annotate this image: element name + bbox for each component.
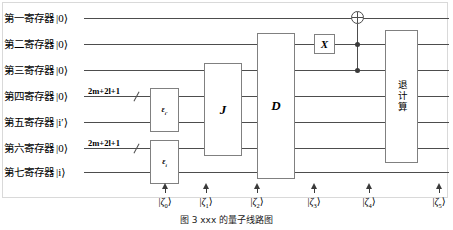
register-label-4: 第四寄存器|0⟩ xyxy=(4,90,68,102)
state-label-3: |ζ3⟩ xyxy=(307,196,320,209)
x-gate-label: X xyxy=(321,38,328,50)
register-name-6: 第六寄存器 xyxy=(4,142,54,154)
toffoli-control-dot-wire2[interactable] xyxy=(355,42,360,47)
j-gate[interactable]: J xyxy=(204,63,242,156)
bundle-label-wire6: 2m+2l+1 xyxy=(88,138,120,148)
register-ket-4: |0⟩ xyxy=(54,90,68,102)
register-ket-2: |0⟩ xyxy=(54,38,68,50)
register-ket-1: |0⟩ xyxy=(54,12,68,24)
state-label-2: |ζ2⟩ xyxy=(250,196,263,209)
register-name-7: 第七寄存器 xyxy=(4,166,54,178)
toffoli-target-icon[interactable] xyxy=(351,11,364,24)
state-label-4: |ζ4⟩ xyxy=(362,196,375,209)
register-label-7: 第七寄存器|i⟩ xyxy=(4,166,66,178)
state-label-1: |ζ1⟩ xyxy=(199,196,212,209)
register-name-2: 第二寄存器 xyxy=(4,38,54,50)
register-ket-5: |i′⟩ xyxy=(54,116,68,128)
figure-caption: 图 3 xxx 的量子线路图 xyxy=(0,213,453,230)
x-gate[interactable]: X xyxy=(314,34,335,54)
register-ket-6: |0⟩ xyxy=(54,142,68,154)
epsilon-iprime-gate[interactable]: εi′ xyxy=(150,88,179,132)
register-label-6: 第六寄存器|0⟩ xyxy=(4,142,68,154)
register-name-4: 第四寄存器 xyxy=(4,90,54,102)
state-label-5: |ζ5⟩ xyxy=(432,196,445,209)
register-label-2: 第二寄存器|0⟩ xyxy=(4,38,68,50)
epsilon-iprime-gate-label: εi′ xyxy=(161,105,167,116)
d-gate[interactable]: D xyxy=(257,33,295,179)
j-gate-label: J xyxy=(220,102,227,118)
register-name-5: 第五寄存器 xyxy=(4,116,54,128)
register-ket-7: |i⟩ xyxy=(54,166,66,178)
quantum-circuit-figure: 第一寄存器|0⟩ 第二寄存器|0⟩ 第三寄存器|0⟩ 第四寄存器|0⟩ 第五寄存… xyxy=(0,0,453,230)
register-label-3: 第三寄存器|0⟩ xyxy=(4,64,68,76)
wire-1 xyxy=(84,18,449,19)
register-ket-3: |0⟩ xyxy=(54,64,68,76)
state-label-0: |ζ0⟩ xyxy=(158,196,171,209)
register-name-1: 第一寄存器 xyxy=(4,12,54,24)
epsilon-i-gate-label: εi xyxy=(162,157,167,168)
epsilon-i-gate[interactable]: εi xyxy=(150,140,179,184)
d-gate-label: D xyxy=(271,98,280,114)
register-label-1: 第一寄存器|0⟩ xyxy=(4,12,68,24)
uncompute-gate-label: 退计算 xyxy=(395,80,409,113)
register-name-3: 第三寄存器 xyxy=(4,64,54,76)
toffoli-control-dot-wire3[interactable] xyxy=(355,68,360,73)
uncompute-gate[interactable]: 退计算 xyxy=(385,30,418,163)
register-label-5: 第五寄存器|i′⟩ xyxy=(4,116,68,128)
bundle-label-wire4: 2m+2l+1 xyxy=(88,86,120,96)
